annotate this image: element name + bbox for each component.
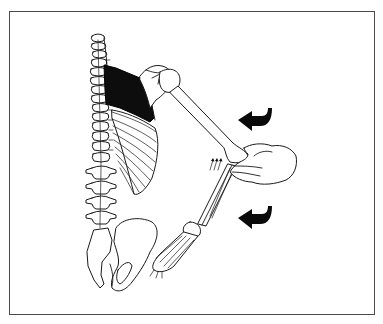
elbow-push-arrows-icon	[210, 158, 223, 170]
forearm	[198, 164, 236, 226]
pelvis	[87, 219, 157, 291]
humerus	[170, 86, 248, 163]
hand-skeleton	[150, 222, 201, 278]
ribcage	[112, 110, 158, 194]
spine	[86, 34, 116, 228]
upper-curved-arrow-icon	[238, 108, 272, 131]
lower-curved-arrow-icon	[238, 206, 272, 229]
anatomy-illustration	[0, 0, 383, 324]
